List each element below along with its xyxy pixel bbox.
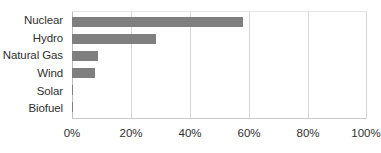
bar-solar[interactable] — [72, 85, 73, 95]
bar-hydro[interactable] — [72, 34, 156, 44]
bar-row — [72, 14, 366, 31]
bar-row — [72, 98, 366, 115]
category-label-hydro: Hydro — [0, 30, 68, 48]
value-axis: 0% 20% 40% 60% 80% 100% — [72, 124, 367, 142]
category-label-solar: Solar — [0, 83, 68, 101]
tick-label-80: 80% — [296, 124, 319, 142]
category-label-biofuel: Biofuel — [0, 100, 68, 118]
bar-series — [72, 12, 366, 118]
tick-label-60: 60% — [237, 124, 260, 142]
category-axis: Nuclear Hydro Natural Gas Wind Solar Bio… — [0, 12, 68, 118]
bar-row — [72, 48, 366, 65]
tick-label-100: 100% — [351, 124, 380, 142]
bar-nuclear[interactable] — [72, 17, 243, 27]
bar-row — [72, 81, 366, 98]
category-label-natural-gas: Natural Gas — [0, 47, 68, 65]
gridline-100 — [366, 12, 367, 118]
bar-row — [72, 64, 366, 81]
category-label-wind: Wind — [0, 65, 68, 83]
tick-label-40: 40% — [178, 124, 201, 142]
tick-label-0: 0% — [64, 124, 81, 142]
bar-biofuel[interactable] — [72, 102, 73, 112]
bar-row — [72, 31, 366, 48]
bar-natural-gas[interactable] — [72, 51, 98, 61]
category-label-nuclear: Nuclear — [0, 12, 68, 30]
bar-wind[interactable] — [72, 68, 95, 78]
plot-area — [72, 11, 367, 119]
tick-label-20: 20% — [119, 124, 142, 142]
